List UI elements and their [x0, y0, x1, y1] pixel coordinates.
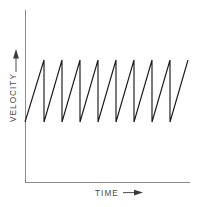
x-axis-label-group: TIME: [95, 189, 143, 198]
y-axis-label: VELOCITY: [9, 73, 18, 122]
x-axis-label: TIME: [95, 189, 119, 198]
arrow-right-icon: [134, 190, 143, 196]
sawtooth-waveform: [25, 60, 188, 122]
plot-area: VELOCITY TIME: [0, 0, 207, 207]
sawtooth-velocity-time-figure: VELOCITY TIME: [0, 0, 207, 207]
y-axis-label-group: VELOCITY: [9, 49, 19, 122]
arrow-up-icon: [13, 49, 19, 59]
